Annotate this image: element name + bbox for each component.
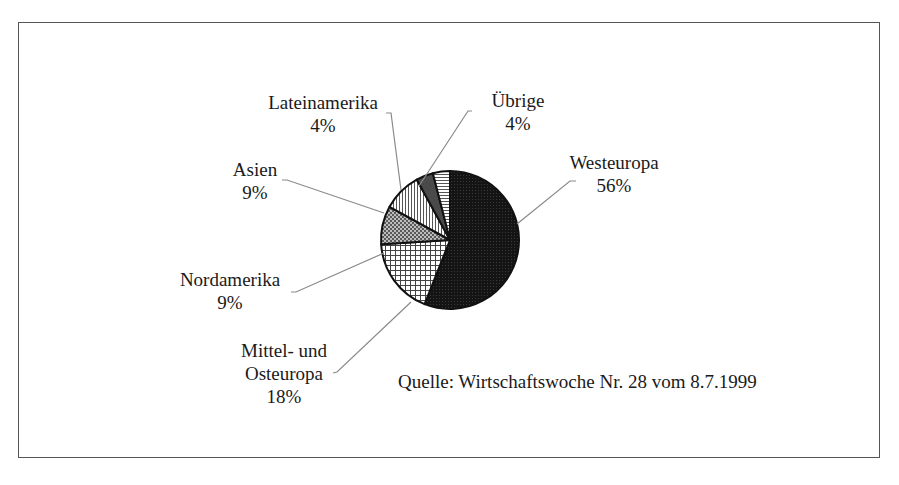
label-mittel-pct: 18%	[241, 385, 327, 408]
label-lateinamerika-pct: 4%	[268, 114, 378, 137]
leader-westeuropa	[517, 181, 576, 224]
label-uebrige-name: Übrige	[492, 89, 545, 112]
label-nordamerika-pct: 9%	[180, 291, 280, 314]
leader-lateinamerika	[386, 113, 401, 190]
label-mittel-osteuropa: Mittel- und Osteuropa 18%	[241, 339, 327, 408]
source-note: Quelle: Wirtschaftswoche Nr. 28 vom 8.7.…	[398, 370, 757, 393]
leader-nordamerika	[291, 253, 384, 292]
label-westeuropa-name: Westeuropa	[569, 151, 658, 174]
label-mittel-name-2: Osteuropa	[241, 362, 327, 385]
leader-mittel-osteuropa	[333, 302, 411, 373]
label-westeuropa: Westeuropa 56%	[569, 151, 658, 197]
leader-asien	[282, 180, 384, 213]
label-lateinamerika: Lateinamerika 4%	[268, 91, 378, 137]
label-asien-name: Asien	[233, 158, 277, 181]
label-asien: Asien 9%	[233, 158, 277, 204]
label-uebrige: Übrige 4%	[492, 89, 545, 135]
label-uebrige-pct: 4%	[492, 112, 545, 135]
label-nordamerika-name: Nordamerika	[180, 268, 280, 291]
label-lateinamerika-name: Lateinamerika	[268, 91, 378, 114]
label-nordamerika: Nordamerika 9%	[180, 268, 280, 314]
label-mittel-name-1: Mittel- und	[241, 339, 327, 362]
label-asien-pct: 9%	[233, 181, 277, 204]
label-westeuropa-pct: 56%	[569, 174, 658, 197]
pie-chart	[0, 0, 899, 485]
